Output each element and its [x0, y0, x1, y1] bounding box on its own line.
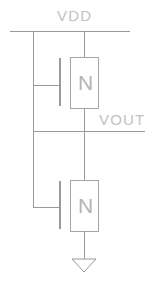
- m2-device-letter: N: [78, 194, 93, 217]
- vdd-net-label: VDD: [57, 8, 92, 23]
- m1-device-letter: N: [78, 71, 93, 94]
- ground-symbol-icon: [72, 259, 96, 272]
- circuit-schematic-canvas: N N VDD VOUT: [0, 0, 153, 285]
- schematic-drawing: N N: [0, 0, 153, 285]
- vout-net-label: VOUT: [99, 112, 145, 127]
